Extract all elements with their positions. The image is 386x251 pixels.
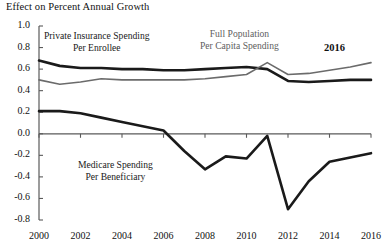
x-tick-label: 2004 <box>102 230 142 241</box>
y-tick-label: 0.4 <box>4 84 30 95</box>
axes-layer <box>39 26 371 220</box>
y-tick-label: 0.0 <box>4 127 30 138</box>
y-tick-label: -0.8 <box>4 213 30 224</box>
annotation-full-population: Full Population Per Capita Spending <box>200 28 279 51</box>
annotation-medicare-line1: Medicare Spending <box>78 159 153 171</box>
y-tick-label: -0.4 <box>4 170 30 181</box>
annotation-full-population-line2: Per Capita Spending <box>200 40 279 52</box>
y-tick-label: 1.0 <box>4 19 30 30</box>
y-tick-label: -0.2 <box>4 148 30 159</box>
annotation-end-year: 2016 <box>324 42 345 53</box>
y-tick-label: 0.8 <box>4 41 30 52</box>
x-tick-label: 2002 <box>61 230 101 241</box>
annotation-private-insurance-line1: Private Insurance Spending <box>44 30 150 42</box>
y-tick-label: 0.2 <box>4 105 30 116</box>
annotation-medicare: Medicare Spending Per Beneficiary <box>78 159 153 182</box>
x-tick-label: 2006 <box>144 230 184 241</box>
x-tick-label: 2014 <box>310 230 350 241</box>
annotation-medicare-line2: Per Beneficiary <box>78 171 153 183</box>
annotation-private-insurance-line2: Per Enrollee <box>44 42 150 54</box>
x-tick-label: 2016 <box>351 230 386 241</box>
x-tick-label: 2008 <box>185 230 225 241</box>
annotation-full-population-line1: Full Population <box>200 28 279 40</box>
annotation-private-insurance: Private Insurance Spending Per Enrollee <box>44 30 150 53</box>
y-tick-label: 0.6 <box>4 62 30 73</box>
x-tick-label: 2012 <box>268 230 308 241</box>
x-tick-label: 2010 <box>227 230 267 241</box>
x-tick-label: 2000 <box>19 230 59 241</box>
y-tick-label: -0.6 <box>4 191 30 202</box>
